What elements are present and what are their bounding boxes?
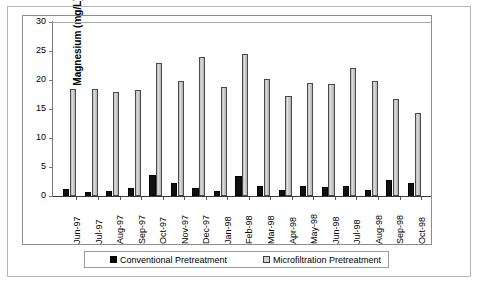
x-tick-label: May-98: [310, 214, 319, 244]
bar-conventional: [63, 189, 69, 196]
y-tick-label: 25: [24, 46, 46, 55]
plot-bars-area: [52, 22, 430, 196]
bar-microfiltration: [242, 54, 248, 196]
legend-entry-microfiltration: Microfiltration Pretreatment: [263, 255, 381, 265]
y-tick-label: 15: [24, 104, 46, 113]
x-tick-label: Sep-98: [396, 215, 405, 244]
x-tick-label: Aug-97: [116, 215, 125, 244]
legend-swatch-conventional-icon: [110, 256, 117, 263]
x-tick-label: Dec-97: [202, 215, 211, 244]
x-tick-label: Oct-98: [418, 217, 427, 244]
x-tick-mark: [206, 197, 207, 200]
bar-microfiltration: [70, 89, 76, 196]
bar-microfiltration: [156, 63, 162, 196]
x-tick-mark: [292, 197, 293, 200]
x-tick-mark: [98, 197, 99, 200]
bar-microfiltration: [372, 81, 378, 196]
y-tick-label: 10: [24, 133, 46, 142]
chart-figure: Magnesium (mg/L) 051015202530 Jun-97Jul-…: [0, 0, 478, 283]
legend-swatch-microfiltration-icon: [263, 256, 270, 263]
x-tick-mark: [356, 197, 357, 200]
x-tick-mark: [141, 197, 142, 200]
x-tick-label: Jul-97: [95, 219, 104, 244]
bar-microfiltration: [135, 90, 141, 196]
bar-conventional: [343, 186, 349, 196]
bar-microfiltration: [113, 92, 119, 196]
bar-conventional: [171, 183, 177, 196]
bar-microfiltration: [92, 89, 98, 196]
chart-legend: Conventional Pretreatment Microfiltratio…: [84, 251, 389, 268]
bar-conventional: [257, 186, 263, 196]
bar-microfiltration: [221, 87, 227, 196]
x-tick-mark: [270, 197, 271, 200]
x-tick-label: Sep-97: [138, 215, 147, 244]
bar-conventional: [149, 175, 155, 196]
x-axis-line: [52, 196, 431, 197]
bar-conventional: [106, 191, 112, 196]
x-tick-label: Oct-97: [159, 217, 168, 244]
bar-microfiltration: [264, 79, 270, 196]
bar-microfiltration: [393, 99, 399, 196]
x-tick-label: Jan-98: [224, 216, 233, 244]
y-tick-label: 20: [24, 75, 46, 84]
x-tick-mark: [249, 197, 250, 200]
bar-conventional: [408, 183, 414, 196]
bar-conventional: [235, 176, 241, 196]
bar-conventional: [300, 186, 306, 196]
bar-conventional: [386, 180, 392, 196]
x-tick-mark: [76, 197, 77, 200]
x-tick-label: Aug-98: [375, 215, 384, 244]
x-tick-mark: [313, 197, 314, 200]
x-tick-label: Feb-98: [245, 215, 254, 244]
bar-conventional: [279, 190, 285, 196]
bar-microfiltration: [307, 83, 313, 196]
legend-label-conventional: Conventional Pretreatment: [120, 255, 227, 265]
x-tick-mark: [335, 197, 336, 200]
bar-microfiltration: [350, 68, 356, 196]
x-tick-label: Jun-97: [73, 216, 82, 244]
y-tick-mark: [49, 196, 53, 197]
bar-microfiltration: [285, 96, 291, 196]
x-tick-label: Jul-98: [353, 219, 362, 244]
x-tick-mark: [400, 197, 401, 200]
x-tick-label: Apr-98: [289, 217, 298, 244]
bar-conventional: [192, 188, 198, 196]
y-tick-label: 5: [24, 162, 46, 171]
x-tick-label: Mar-98: [267, 215, 276, 244]
x-tick-mark: [163, 197, 164, 200]
bar-microfiltration: [178, 81, 184, 196]
bar-conventional: [128, 188, 134, 196]
bar-microfiltration: [415, 113, 421, 196]
x-tick-mark: [378, 197, 379, 200]
bar-microfiltration: [199, 57, 205, 196]
x-tick-label: Nov-97: [181, 215, 190, 244]
bar-conventional: [214, 191, 220, 196]
bar-microfiltration: [328, 84, 334, 196]
x-tick-label: Jun-98: [332, 216, 341, 244]
legend-label-microfiltration: Microfiltration Pretreatment: [273, 255, 381, 265]
y-tick-label: 0: [24, 191, 46, 200]
bar-conventional: [85, 192, 91, 196]
x-tick-mark: [120, 197, 121, 200]
legend-entry-conventional: Conventional Pretreatment: [110, 255, 227, 265]
bar-conventional: [322, 187, 328, 196]
y-tick-label: 30: [24, 17, 46, 26]
x-tick-mark: [421, 197, 422, 200]
x-tick-mark: [227, 197, 228, 200]
x-tick-mark: [184, 197, 185, 200]
bar-conventional: [365, 190, 371, 196]
